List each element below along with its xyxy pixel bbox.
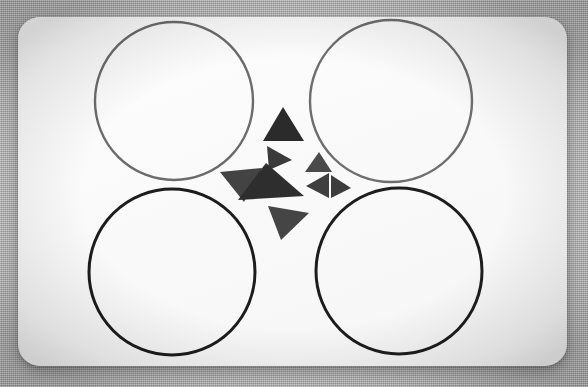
triangle-mid-right	[306, 173, 329, 198]
triangle-upper-left	[267, 146, 292, 170]
circle-top-left	[95, 22, 253, 180]
triangle-upper-right	[305, 152, 332, 172]
triangle-top	[263, 107, 304, 141]
triangle-far-right	[331, 175, 351, 198]
circle-top-right	[310, 20, 472, 182]
circle-bottom-left	[89, 189, 255, 355]
shapes-layer	[0, 0, 588, 387]
scene-canvas	[0, 0, 588, 387]
triangle-bottom	[268, 206, 309, 240]
triangles-group	[220, 107, 351, 240]
circle-bottom-right	[316, 188, 482, 354]
